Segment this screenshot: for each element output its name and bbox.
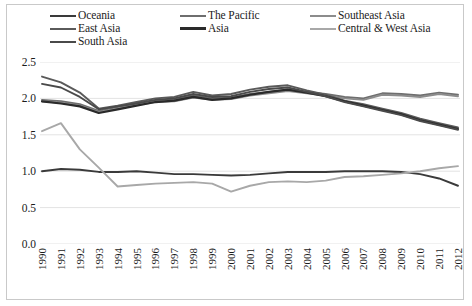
legend-label: The Pacific xyxy=(208,9,260,22)
legend-label: South Asia xyxy=(78,35,127,48)
y-tick-label: 1.0 xyxy=(2,166,36,176)
legend-swatch-icon xyxy=(310,15,336,17)
x-tick-label: 1993 xyxy=(93,248,105,270)
series-line xyxy=(42,77,458,128)
x-tick-label: 1997 xyxy=(168,248,180,270)
legend-label: Southeast Asia xyxy=(338,9,405,22)
legend-item[interactable]: Oceania xyxy=(50,9,180,22)
x-tick-label: 2006 xyxy=(339,248,351,270)
legend-swatch-icon xyxy=(50,28,76,30)
x-tick-label: 2009 xyxy=(395,248,407,270)
legend-label: East Asia xyxy=(78,22,120,35)
legend-label: Oceania xyxy=(78,9,115,22)
legend-swatch-icon xyxy=(180,27,206,30)
legend-item[interactable]: Central & West Asia xyxy=(310,22,460,35)
x-tick-label: 2007 xyxy=(357,248,369,270)
legend-label: Central & West Asia xyxy=(338,22,430,35)
legend-item[interactable]: East Asia xyxy=(50,22,180,35)
x-tick-label: 2003 xyxy=(282,248,294,270)
x-tick-label: 1991 xyxy=(55,248,67,270)
x-tick-label: 2010 xyxy=(414,248,426,270)
legend-item[interactable]: Southeast Asia xyxy=(310,9,460,22)
series-line xyxy=(42,123,458,191)
legend-item[interactable]: South Asia xyxy=(50,35,180,48)
y-tick-label: 1.5 xyxy=(2,130,36,140)
x-tick-label: 2004 xyxy=(301,248,313,270)
legend-label: Asia xyxy=(208,22,229,35)
x-tick-label: 1999 xyxy=(206,248,218,270)
chart-legend: OceaniaThe PacificSoutheast AsiaEast Asi… xyxy=(50,9,460,48)
x-tick-label: 2008 xyxy=(376,248,388,270)
x-tick-label: 2001 xyxy=(244,248,256,270)
x-tick-label: 2011 xyxy=(433,248,445,270)
legend-swatch-icon xyxy=(50,41,76,43)
x-tick-label: 1992 xyxy=(74,248,86,270)
series-lines xyxy=(42,77,458,192)
legend-item[interactable]: The Pacific xyxy=(180,9,310,22)
x-tick-label: 1990 xyxy=(36,248,48,270)
plot-area xyxy=(40,62,460,244)
x-tick-label: 2002 xyxy=(263,248,275,270)
chart-screenshot: OceaniaThe PacificSoutheast AsiaEast Asi… xyxy=(0,0,472,306)
x-tick-label: 1996 xyxy=(149,248,161,270)
x-axis: 1990199119921993199419951996199719981999… xyxy=(40,246,460,296)
line-chart-svg xyxy=(40,62,460,244)
x-tick-label: 2005 xyxy=(320,248,332,270)
y-tick-label: 2.0 xyxy=(2,93,36,103)
y-tick-label: 0.5 xyxy=(2,203,36,213)
y-tick-label: 0.0 xyxy=(2,239,36,249)
legend-swatch-icon xyxy=(310,28,336,30)
legend-swatch-icon xyxy=(50,15,76,17)
y-tick-label: 2.5 xyxy=(2,57,36,67)
legend-swatch-icon xyxy=(180,15,206,17)
x-tick-label: 1998 xyxy=(187,248,199,270)
x-tick-label: 2000 xyxy=(225,248,237,270)
legend-item[interactable]: Asia xyxy=(180,22,310,35)
y-axis: 2.52.01.51.00.50.0 xyxy=(0,62,36,244)
x-tick-label: 1995 xyxy=(131,248,143,270)
x-tick-label: 1994 xyxy=(112,248,124,270)
x-tick-label: 2012 xyxy=(452,248,464,270)
